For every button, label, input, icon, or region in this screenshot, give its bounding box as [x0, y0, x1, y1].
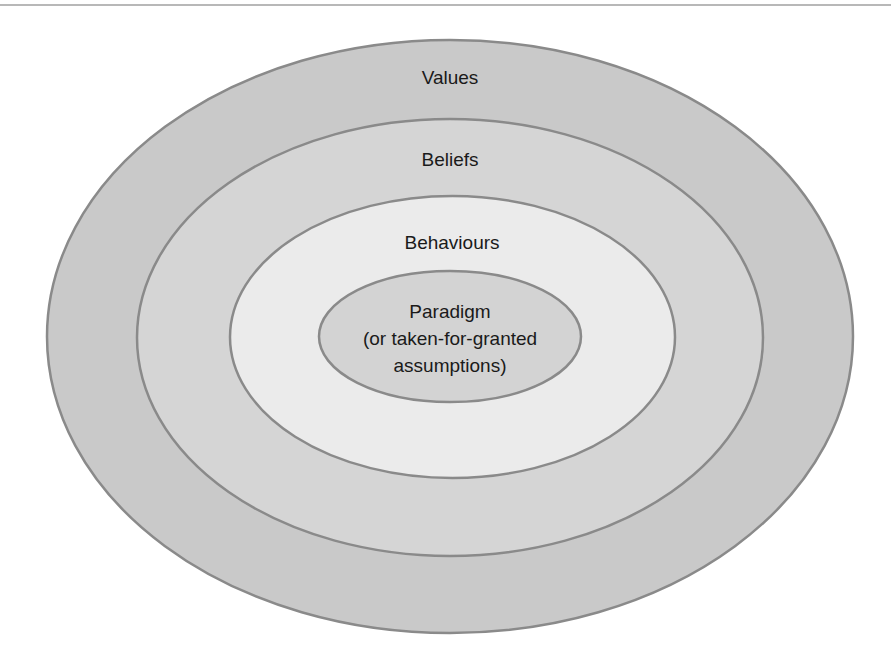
paradigm-label-line2: (or taken-for-granted — [363, 328, 537, 349]
beliefs-label: Beliefs — [421, 149, 478, 170]
behaviours-label: Behaviours — [404, 232, 499, 253]
values-label: Values — [422, 67, 479, 88]
culture-layers-diagram: Values Beliefs Behaviours Paradigm (or t… — [0, 0, 891, 665]
paradigm-label-line1: Paradigm — [409, 301, 490, 322]
paradigm-label-line3: assumptions) — [394, 355, 507, 376]
